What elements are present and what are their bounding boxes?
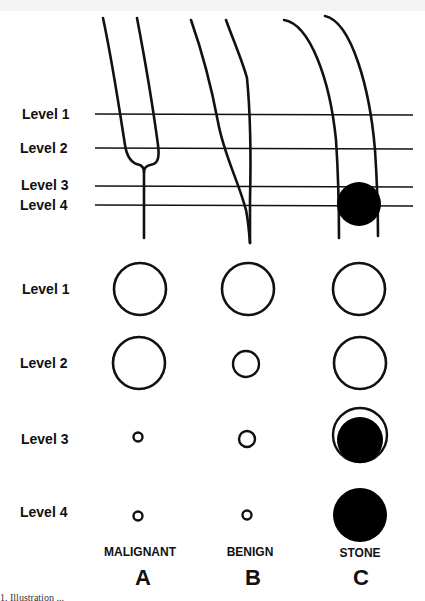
column-a-circles — [113, 263, 166, 521]
top-level-4-label: Level 4 — [20, 197, 67, 213]
c-level-2-circle — [334, 337, 386, 389]
a-level-4-circle — [134, 512, 143, 521]
top-level-3-label: Level 3 — [21, 177, 68, 193]
level-2-line — [95, 148, 413, 149]
category-malignant: MALIGNANT — [90, 545, 190, 559]
a-level-3-circle — [134, 433, 143, 442]
category-stone: STONE — [310, 546, 410, 560]
top-level-2-label: Level 2 — [20, 140, 67, 156]
caption-fragment: 1. Illustration ... — [0, 593, 64, 601]
level-1-line — [95, 114, 413, 115]
b-level-1-circle — [222, 263, 274, 315]
c-level-4-stone — [333, 488, 387, 542]
category-benign: BENIGN — [200, 545, 300, 559]
section-level-2-label: Level 2 — [20, 355, 67, 371]
b-level-4-circle — [243, 511, 252, 520]
column-c-circles — [333, 263, 387, 542]
section-level-4-label: Level 4 — [20, 504, 67, 520]
benign-duct — [191, 20, 251, 243]
a-level-1-circle — [114, 263, 166, 315]
c-level-1-circle — [333, 263, 385, 315]
top-level-1-label: Level 1 — [22, 106, 69, 122]
letter-b: B — [223, 566, 283, 590]
section-level-3-label: Level 3 — [21, 431, 68, 447]
letter-c: C — [331, 566, 391, 590]
stone — [337, 182, 381, 226]
column-b-circles — [222, 263, 274, 520]
letter-a: A — [113, 566, 173, 590]
c-level-3-stone — [337, 417, 383, 463]
a-level-2-circle — [113, 337, 165, 389]
b-level-3-circle — [239, 431, 255, 447]
b-level-2-circle — [233, 351, 259, 377]
section-level-1-label: Level 1 — [22, 281, 69, 297]
